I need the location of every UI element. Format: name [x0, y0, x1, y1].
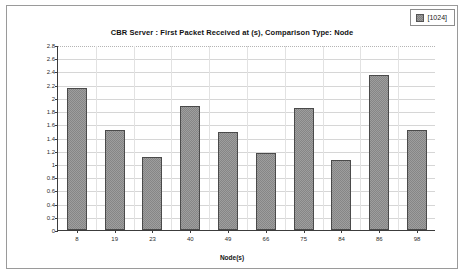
bar-slot: 23	[134, 46, 172, 230]
bar-slot: 75	[285, 46, 323, 230]
x-axis-tick-mark	[341, 230, 342, 233]
bar[interactable]	[407, 130, 427, 230]
x-axis-tick-mark	[304, 230, 305, 233]
x-axis-tick-label: 49	[225, 236, 232, 242]
y-axis-tick-label: 0.6	[47, 188, 55, 194]
x-axis-tick-label: 84	[338, 236, 345, 242]
x-axis-tick-mark	[266, 230, 267, 233]
y-axis-tick-label: 2.8	[47, 43, 55, 49]
x-axis-tick-label: 23	[149, 236, 156, 242]
y-axis-tick-label: 2.4	[47, 69, 55, 75]
x-axis-tick-mark	[115, 230, 116, 233]
y-axis-tick-label: 1.8	[47, 109, 55, 115]
chart-screenshot: [1024] CBR Server : First Packet Receive…	[0, 0, 464, 275]
bar[interactable]	[331, 160, 351, 230]
y-axis-tick-label: 2.2	[47, 83, 55, 89]
x-axis-tick-label: 66	[263, 236, 270, 242]
y-axis-tick-label: 1.2	[47, 149, 55, 155]
x-axis-tick-label: 8	[75, 236, 78, 242]
bar-slot: 40	[171, 46, 209, 230]
bar[interactable]	[369, 75, 389, 230]
x-axis-tick-mark	[77, 230, 78, 233]
bar[interactable]	[180, 106, 200, 230]
x-axis-tick-mark	[228, 230, 229, 233]
x-axis-title: Node(s)	[0, 254, 464, 261]
plot-area: 00.20.40.60.811.21.41.61.822.22.42.62.8 …	[57, 46, 435, 231]
x-axis-tick-mark	[417, 230, 418, 233]
plot-wrapper: 00.20.40.60.811.21.41.61.822.22.42.62.8 …	[57, 46, 435, 231]
y-axis-tick-label: 2.6	[47, 56, 55, 62]
x-axis-tick-label: 75	[300, 236, 307, 242]
x-axis-tick-mark	[190, 230, 191, 233]
y-axis-tick-label: 1.6	[47, 122, 55, 128]
x-axis-tick-mark	[152, 230, 153, 233]
bar[interactable]	[218, 132, 238, 230]
bar-slot: 84	[323, 46, 361, 230]
bar-slot: 98	[398, 46, 436, 230]
x-axis-tick-label: 86	[376, 236, 383, 242]
bar[interactable]	[256, 153, 276, 230]
bar-slot: 66	[247, 46, 285, 230]
bar-slot: 49	[209, 46, 247, 230]
bar[interactable]	[142, 157, 162, 230]
y-axis-tick-mark	[55, 231, 58, 232]
y-axis-tick-label: 0.8	[47, 175, 55, 181]
chart-legend[interactable]: [1024]	[410, 9, 455, 26]
bar-slot: 86	[360, 46, 398, 230]
bar[interactable]	[67, 88, 87, 230]
bar[interactable]	[294, 108, 314, 230]
legend-item-label: [1024]	[428, 13, 447, 22]
bar-slot: 19	[96, 46, 134, 230]
bar[interactable]	[105, 130, 125, 230]
x-axis-tick-label: 98	[414, 236, 421, 242]
chart-title: CBR Server : First Packet Received at (s…	[0, 28, 464, 37]
bar-slot: 8	[58, 46, 96, 230]
series-swatch-icon	[416, 14, 424, 22]
x-axis-tick-mark	[379, 230, 380, 233]
x-axis-tick-label: 40	[187, 236, 194, 242]
bars-layer: 8192340496675848698	[58, 46, 435, 230]
y-axis-tick-label: 0.4	[47, 202, 55, 208]
y-axis-tick-label: 1.4	[47, 136, 55, 142]
x-axis-tick-label: 19	[111, 236, 118, 242]
y-axis-tick-label: 0.2	[47, 215, 55, 221]
